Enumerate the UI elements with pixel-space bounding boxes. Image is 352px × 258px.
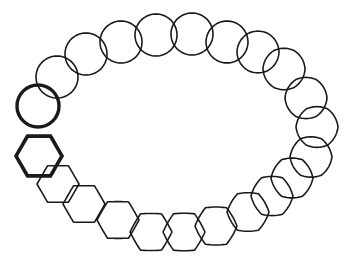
morph-outline bbox=[227, 193, 269, 232]
morph-outline bbox=[163, 213, 205, 251]
morph-loop-diagram bbox=[0, 0, 352, 258]
bold-circle bbox=[17, 85, 59, 127]
morph-outline bbox=[130, 213, 172, 250]
morph-outline bbox=[285, 77, 327, 118]
morph-outline bbox=[296, 107, 338, 148]
diagram-canvas bbox=[0, 0, 352, 258]
circle-outline bbox=[36, 56, 78, 98]
hexagon-outline bbox=[37, 166, 79, 202]
bold-hexagon bbox=[16, 136, 62, 176]
circle-outline bbox=[206, 21, 248, 63]
